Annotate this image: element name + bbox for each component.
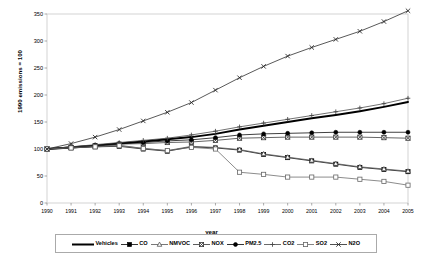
series-pm2-5 (45, 130, 410, 151)
x-tick-label: 2004 (378, 208, 390, 214)
x-tick-label: 1996 (186, 208, 198, 214)
legend-label: PM2.5 (245, 241, 261, 247)
y-tick-label: 200 (34, 92, 43, 98)
x-tick-label: 1998 (234, 208, 246, 214)
legend-marker-icon (227, 235, 244, 253)
y-tick-label: 300 (34, 38, 43, 44)
legend-marker-icon (264, 235, 281, 253)
data-series-layer (45, 9, 411, 188)
x-tick-label: 1993 (113, 208, 125, 214)
chart-legend: VehiclesCONMVOCNOXPM2.5CO2SO2N2O (55, 234, 377, 253)
y-tick-label: 350 (34, 11, 43, 17)
y-tick-label: 150 (34, 119, 43, 125)
series-so2 (45, 144, 410, 188)
legend-marker-icon (330, 235, 347, 253)
legend-item-co2[interactable]: CO2 (263, 235, 295, 253)
series-nmvoc (45, 143, 411, 173)
legend-label: CO2 (283, 241, 295, 247)
legend-label: N2O (349, 241, 361, 247)
legend-label: Vehicles (95, 241, 117, 247)
chart-container: 050100150200250300350 199019911992199319… (0, 0, 423, 258)
y-tick-label: 50 (37, 173, 43, 179)
x-axis-ticks: 1990199119921993199419951996199719981999… (41, 203, 414, 214)
legend-marker-icon (297, 235, 314, 253)
x-tick-label: 2003 (354, 208, 366, 214)
x-tick-label: 2001 (306, 208, 318, 214)
legend-label: CO (139, 241, 147, 247)
legend-marker-icon (193, 235, 210, 253)
y-tick-label: 100 (34, 146, 43, 152)
legend-marker-icon (121, 235, 138, 253)
plot-frame (47, 14, 408, 203)
legend-label: NMVOC (169, 241, 190, 247)
legend-item-pm2-5[interactable]: PM2.5 (226, 235, 263, 253)
x-tick-label: 1995 (162, 208, 174, 214)
series-co2 (45, 96, 411, 151)
x-tick-label: 1994 (137, 208, 149, 214)
legend-item-nox[interactable]: NOX (192, 235, 225, 253)
x-tick-label: 1999 (258, 208, 270, 214)
legend-item-nmvoc[interactable]: NMVOC (150, 235, 191, 253)
y-tick-label: 250 (34, 65, 43, 71)
y-tick-label: 0 (40, 200, 43, 206)
y-axis-title: 1990 emissions = 100 (16, 32, 23, 132)
legend-marker-icon (151, 235, 168, 253)
legend-label: SO2 (316, 241, 327, 247)
x-tick-label: 1990 (41, 208, 53, 214)
x-tick-label: 2000 (282, 208, 294, 214)
legend-item-co[interactable]: CO (120, 235, 149, 253)
legend-item-so2[interactable]: SO2 (296, 235, 328, 253)
series-n2o (45, 9, 410, 152)
legend-item-n2o[interactable]: N2O (329, 235, 361, 253)
legend-item-vehicles[interactable]: Vehicles (71, 235, 119, 253)
x-tick-label: 2002 (330, 208, 342, 214)
x-tick-label: 2005 (402, 208, 414, 214)
x-tick-label: 1991 (65, 208, 77, 214)
x-tick-label: 1997 (210, 208, 222, 214)
chart-plot-svg: 050100150200250300350 199019911992199319… (0, 0, 423, 258)
legend-marker-icon (72, 235, 94, 253)
legend-label: NOX (212, 241, 224, 247)
y-axis-ticks: 050100150200250300350 (34, 11, 47, 206)
x-tick-label: 1992 (89, 208, 101, 214)
